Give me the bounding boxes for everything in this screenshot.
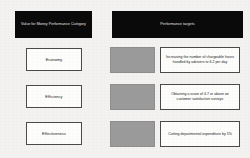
target-box-effectiveness: Cutting departmental expenditure by 5% xyxy=(160,121,240,147)
category-box-economy: Economy xyxy=(26,48,82,71)
category-label-economy: Economy xyxy=(46,57,63,62)
header-performance-category-label: Value for Money Performance Category xyxy=(21,22,86,26)
placeholder-block-efficiency xyxy=(110,84,155,110)
category-box-efficiency: Efficiency xyxy=(26,85,82,108)
target-box-efficiency: Obtaining a score of 4.7 or above on cus… xyxy=(160,84,240,110)
header-performance-targets-label: Performance targets xyxy=(160,22,194,27)
category-box-effectiveness: Effectiveness xyxy=(26,122,82,145)
placeholder-block-effectiveness xyxy=(110,121,155,147)
category-label-effectiveness: Effectiveness xyxy=(42,131,66,136)
target-label-effectiveness: Cutting departmental expenditure by 5% xyxy=(168,132,232,137)
target-box-economy: Increasing the number of chargeable hour… xyxy=(160,47,240,73)
header-performance-targets: Performance targets xyxy=(112,11,243,38)
header-performance-category: Value for Money Performance Category xyxy=(15,11,92,38)
value-for-money-diagram: Value for Money Performance Category Per… xyxy=(0,0,250,158)
category-label-efficiency: Efficiency xyxy=(45,94,62,99)
target-label-efficiency: Obtaining a score of 4.7 or above on cus… xyxy=(164,92,236,102)
placeholder-block-economy xyxy=(110,47,155,73)
target-label-economy: Increasing the number of chargeable hour… xyxy=(164,55,236,65)
